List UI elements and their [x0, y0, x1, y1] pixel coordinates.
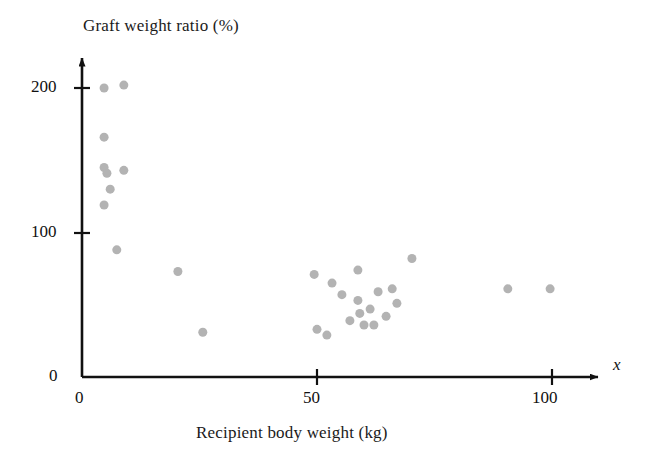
scatter-point: [374, 287, 383, 296]
scatter-point: [345, 316, 354, 325]
scatter-point: [337, 290, 346, 299]
scatter-point: [388, 284, 397, 293]
y-tick-label-200: 200: [31, 77, 57, 97]
scatter-plot-figure: Graft weight ratio (%) Recipient body we…: [0, 0, 649, 466]
scatter-point: [353, 296, 362, 305]
scatter-point: [198, 328, 207, 337]
x-axis-title: Recipient body weight (kg): [196, 423, 388, 443]
scatter-point: [407, 254, 416, 263]
scatter-point: [112, 245, 121, 254]
scatter-point: [353, 266, 362, 275]
scatter-point: [100, 201, 109, 210]
scatter-point: [369, 320, 378, 329]
data-points: [100, 81, 555, 340]
scatter-point: [313, 325, 322, 334]
scatter-point: [360, 320, 369, 329]
scatter-point: [119, 81, 128, 90]
scatter-point: [328, 279, 337, 288]
scatter-point: [106, 185, 115, 194]
axis-ticks: [74, 88, 552, 385]
y-tick-label-100: 100: [31, 222, 57, 242]
y-tick-label-0: 0: [49, 366, 58, 386]
scatter-point: [102, 169, 111, 178]
scatter-point: [119, 166, 128, 175]
scatter-point: [173, 267, 182, 276]
axes: [82, 58, 598, 377]
scatter-point: [503, 284, 512, 293]
scatter-point: [382, 312, 391, 321]
scatter-point: [322, 331, 331, 340]
scatter-point: [546, 284, 555, 293]
x-tick-label-100: 100: [532, 388, 558, 408]
scatter-point: [100, 133, 109, 142]
scatter-point: [392, 299, 401, 308]
x-tick-label-0: 0: [75, 388, 84, 408]
scatter-point: [310, 270, 319, 279]
x-axis-variable-symbol: x: [613, 355, 621, 375]
y-axis-title: Graft weight ratio (%): [83, 16, 239, 36]
scatter-point: [100, 84, 109, 93]
scatter-point: [355, 309, 364, 318]
scatter-point: [366, 305, 375, 314]
x-tick-label-50: 50: [303, 388, 320, 408]
